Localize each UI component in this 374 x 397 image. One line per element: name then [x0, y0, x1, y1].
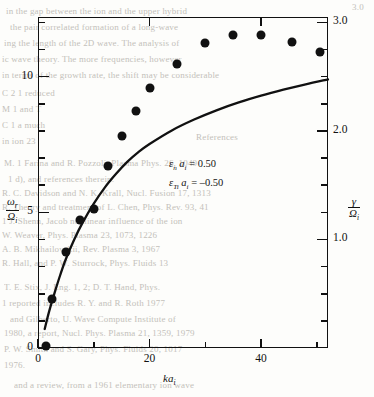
data-point-marker: [47, 295, 56, 304]
x-axis-title: kai: [163, 372, 175, 387]
omega-r-curve: [0, 0, 374, 397]
data-point-marker: [287, 37, 296, 46]
x-axis-title-text: kai: [163, 372, 175, 384]
annotation-epsilon-n-value: = 0.50: [189, 158, 216, 169]
data-point-marker: [103, 161, 112, 170]
omega-r-curve-path: [45, 79, 328, 329]
y-left-numerator: ωr: [6, 196, 19, 211]
data-point-marker: [61, 248, 70, 257]
y-axis-left-title: ωr Ωi: [6, 196, 19, 225]
annotation-epsilon-ti: εTi ai = –0.50: [169, 177, 223, 191]
data-point-marker: [229, 31, 238, 40]
data-point-marker: [315, 47, 324, 56]
annotation-epsilon-n-sub: n: [173, 164, 177, 172]
data-point-marker: [173, 59, 182, 68]
annotation-epsilon-ti-sub: Ti: [173, 183, 179, 191]
data-point-marker: [257, 31, 266, 40]
y-left-denominator: Ωi: [6, 211, 19, 225]
y-right-denominator: Ωi: [348, 208, 360, 222]
annotation-epsilon-ti-value: = –0.50: [191, 177, 223, 188]
data-point-marker: [89, 205, 98, 214]
data-point-marker: [201, 39, 210, 48]
annotation-epsilon-n: εn ai = 0.50: [169, 158, 216, 172]
data-point-marker: [42, 341, 51, 350]
annotation-epsilon-n-var-sub: i: [185, 164, 187, 172]
data-point-marker: [75, 215, 84, 224]
data-point-marker: [117, 132, 126, 141]
figure-container: in the gap between the ion and the upper…: [0, 0, 374, 397]
data-point-marker: [145, 83, 154, 92]
data-point-marker: [131, 107, 140, 116]
annotation-epsilon-ti-var-sub: i: [187, 183, 189, 191]
y-axis-right-title: γ Ωi: [348, 196, 360, 222]
